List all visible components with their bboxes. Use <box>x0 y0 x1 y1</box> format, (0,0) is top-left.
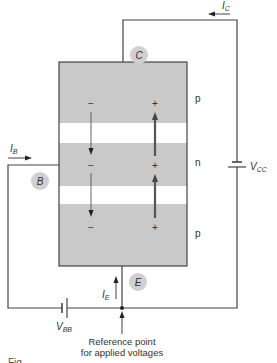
base-region-label: n <box>195 157 201 168</box>
minus-sign-top: − <box>88 98 94 109</box>
emitter-terminal: E <box>129 273 147 291</box>
figure-caption: Fig. <box>8 357 25 363</box>
base-region <box>59 143 187 186</box>
minus-sign-bottom: − <box>88 222 94 233</box>
svg-text:C: C <box>135 50 143 61</box>
minus-sign-middle: − <box>88 160 94 171</box>
reference-text-line1: Reference point <box>88 336 155 347</box>
emitter-region-label: p <box>195 228 201 239</box>
svg-text:E: E <box>135 277 142 288</box>
plus-sign-middle: + <box>152 160 158 171</box>
ib-label: IB <box>10 143 18 155</box>
reference-node <box>120 306 124 310</box>
vbb-battery-icon <box>62 298 67 318</box>
transistor-diagram: VCC VBB Reference point for applied volt… <box>0 0 277 363</box>
plus-sign-top: + <box>152 98 158 109</box>
reference-arrow-icon <box>120 311 125 334</box>
ic-arrow-icon <box>208 12 230 17</box>
ic-label: IC <box>222 0 231 12</box>
ie-label: IE <box>102 289 110 301</box>
collector-region-label: p <box>195 93 201 104</box>
base-terminal: B <box>31 172 49 190</box>
svg-text:B: B <box>37 176 44 187</box>
collector-region <box>59 62 187 123</box>
plus-sign-bottom: + <box>152 222 158 233</box>
ie-arrow-icon <box>114 276 119 299</box>
collector-terminal: C <box>130 46 148 64</box>
reference-text-line2: for applied voltages <box>81 347 164 358</box>
vcc-battery-icon <box>228 162 246 167</box>
vcc-label: VCC <box>250 161 268 173</box>
emitter-region <box>59 204 187 266</box>
vbb-label: VBB <box>56 321 72 333</box>
transistor-body <box>59 62 187 266</box>
ib-arrow-icon <box>8 156 32 161</box>
